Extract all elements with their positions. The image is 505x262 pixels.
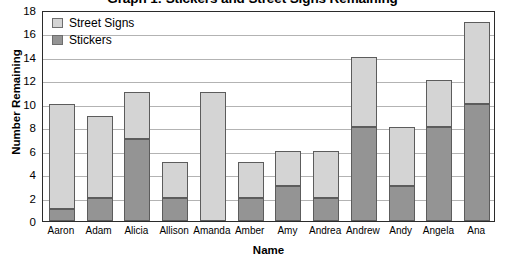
bar-group (313, 151, 339, 221)
x-tick-label: Angela (423, 225, 454, 236)
x-axis-tick-labels: AaronAdamAliciaAllisonAmandaAmberAmyAndr… (42, 225, 495, 241)
x-tick-label: Amy (277, 225, 297, 236)
x-tick-label: Andy (389, 225, 412, 236)
bar-group (464, 22, 490, 221)
bar-group (200, 92, 226, 221)
x-tick-label: Amber (235, 225, 264, 236)
bar-segment-street-signs (200, 92, 226, 221)
bar-segment-stickers (275, 186, 301, 221)
bar-segment-stickers (87, 198, 113, 221)
bar-segment-street-signs (162, 162, 188, 197)
y-tick-label: 4 (30, 169, 36, 181)
chart-title: Graph 1: Stickers and Street Signs Remai… (0, 0, 505, 6)
y-tick-label: 10 (23, 99, 36, 111)
bar-segment-street-signs (124, 92, 150, 139)
x-tick-label: Andrew (346, 225, 380, 236)
y-tick-label: 14 (23, 52, 36, 64)
bar-group (162, 162, 188, 221)
bar-group (351, 57, 377, 221)
bar-segment-stickers (389, 186, 415, 221)
bar-segment-stickers (162, 198, 188, 221)
bar-segment-street-signs (426, 80, 452, 127)
bar-segment-stickers (49, 209, 75, 221)
chart-screenshot: Graph 1: Stickers and Street Signs Remai… (0, 0, 505, 262)
x-tick-label: Allison (159, 225, 188, 236)
legend-swatch-icon (52, 35, 63, 45)
bar-segment-street-signs (389, 127, 415, 186)
y-tick-label: 18 (23, 5, 36, 17)
legend-label: Stickers (69, 33, 112, 47)
bar-segment-stickers (238, 198, 264, 221)
bar-group (124, 92, 150, 221)
legend-item: Street Signs (52, 15, 134, 30)
bar-segment-street-signs (49, 104, 75, 210)
bar-segment-street-signs (275, 151, 301, 186)
y-tick-label: 6 (30, 146, 36, 158)
bar-segment-stickers (426, 127, 452, 221)
y-tick-label: 12 (23, 75, 36, 87)
x-tick-label: Alicia (124, 225, 148, 236)
bar-segment-stickers (351, 127, 377, 221)
legend-item: Stickers (52, 32, 134, 47)
legend-label: Street Signs (69, 16, 134, 30)
y-tick-label: 16 (23, 28, 36, 40)
bar-group (49, 104, 75, 221)
y-tick-label: 2 (30, 193, 36, 205)
x-tick-label: Andrea (309, 225, 341, 236)
x-tick-label: Amanda (193, 225, 230, 236)
bar-group (275, 151, 301, 221)
bar-group (87, 116, 113, 222)
bar-segment-street-signs (313, 151, 339, 198)
y-tick-label: 8 (30, 122, 36, 134)
x-tick-label: Adam (86, 225, 112, 236)
y-tick-label: 0 (30, 216, 36, 228)
bar-segment-stickers (464, 104, 490, 221)
bar-segment-street-signs (464, 22, 490, 104)
bar-group (238, 162, 264, 221)
bar-group (389, 127, 415, 221)
bar-segment-stickers (313, 198, 339, 221)
x-axis-title: Name (42, 244, 495, 256)
legend: Street SignsStickers (52, 15, 134, 47)
x-tick-label: Ana (467, 225, 485, 236)
bar-segment-street-signs (351, 57, 377, 127)
bar-group (426, 80, 452, 221)
legend-swatch-icon (52, 18, 63, 28)
bar-segment-street-signs (87, 116, 113, 198)
y-axis-tick-labels: 181614121086420 (0, 0, 42, 262)
x-tick-label: Aaron (48, 225, 75, 236)
bar-segment-street-signs (238, 162, 264, 197)
bar-segment-stickers (124, 139, 150, 221)
